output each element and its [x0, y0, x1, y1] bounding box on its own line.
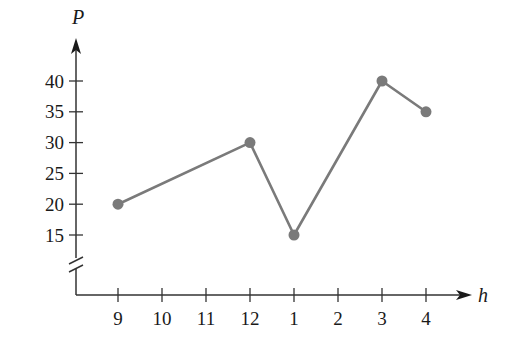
y-tick-label: 20 [45, 194, 64, 215]
x-tick-label: 2 [333, 308, 343, 329]
y-tick-label: 25 [45, 163, 64, 184]
x-axis-label: h [478, 284, 488, 306]
x-tick-label: 4 [421, 308, 431, 329]
x-tick-label: 3 [377, 308, 387, 329]
data-point-marker [421, 106, 432, 117]
x-tick-label: 12 [241, 308, 260, 329]
y-tick-label: 35 [45, 101, 64, 122]
x-tick-label: 11 [197, 308, 215, 329]
x-tick-label: 1 [289, 308, 299, 329]
data-point-marker [245, 137, 256, 148]
y-axis-ticks: 152025303540 [45, 71, 83, 246]
axis-break-mark [69, 257, 83, 264]
series-line [118, 81, 426, 235]
data-series [113, 76, 432, 241]
y-tick-label: 40 [45, 71, 64, 92]
y-axis-label: P [71, 6, 84, 28]
line-chart: 152025303540 91011121234 P h [0, 0, 516, 350]
x-axis-ticks: 91011121234 [113, 288, 431, 329]
axes [69, 38, 472, 300]
data-point-marker [377, 76, 388, 87]
data-point-marker [289, 230, 300, 241]
y-tick-label: 15 [45, 225, 64, 246]
x-tick-label: 9 [113, 308, 123, 329]
data-point-marker [113, 199, 124, 210]
y-tick-label: 30 [45, 132, 64, 153]
x-tick-label: 10 [153, 308, 172, 329]
